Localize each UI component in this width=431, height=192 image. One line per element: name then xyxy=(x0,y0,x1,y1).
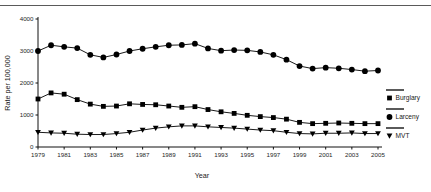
data-point xyxy=(257,49,263,55)
data-point xyxy=(205,46,211,52)
data-point xyxy=(323,65,329,71)
data-point xyxy=(349,121,354,126)
data-point xyxy=(127,101,132,106)
data-point xyxy=(49,91,54,96)
data-point xyxy=(179,42,185,48)
data-point xyxy=(127,48,133,54)
data-point xyxy=(258,114,263,119)
x-tick-label: 1983 xyxy=(83,151,97,158)
data-point xyxy=(88,102,93,107)
data-point xyxy=(310,66,316,72)
data-point xyxy=(297,120,302,125)
data-point xyxy=(231,47,237,53)
data-point xyxy=(166,104,171,109)
data-point xyxy=(140,102,145,107)
data-point xyxy=(375,68,381,74)
y-tick-label: 0 xyxy=(30,143,34,150)
x-tick-label: 2003 xyxy=(345,151,359,158)
data-point xyxy=(153,102,158,107)
series-larceny xyxy=(35,41,381,74)
data-point xyxy=(362,68,368,74)
x-tick-label: 2005 xyxy=(371,151,385,158)
data-point xyxy=(179,105,184,110)
series-burglary xyxy=(36,91,381,127)
data-point xyxy=(75,97,80,102)
chart-series-group xyxy=(35,41,381,138)
data-point xyxy=(244,47,250,53)
chart-legend: BurglaryLarcenyMVT xyxy=(386,90,421,139)
data-point xyxy=(140,46,146,52)
legend-item-larceny[interactable]: Larceny xyxy=(386,109,420,121)
data-point xyxy=(206,107,211,112)
data-point xyxy=(376,121,381,126)
x-tick-label: 1999 xyxy=(293,151,307,158)
data-point xyxy=(284,117,289,122)
x-tick-label: 1993 xyxy=(214,151,228,158)
x-tick-label: 1985 xyxy=(110,151,124,158)
data-point xyxy=(192,41,198,47)
chart-axes xyxy=(38,17,382,147)
data-point xyxy=(297,63,303,69)
data-point xyxy=(114,104,119,109)
data-point xyxy=(114,52,120,58)
data-point xyxy=(349,67,355,73)
y-tick-label: 4000 xyxy=(20,15,34,22)
x-tick-label: 1989 xyxy=(162,151,176,158)
legend-item-burglary[interactable]: Burglary xyxy=(386,90,421,102)
data-point xyxy=(323,121,328,126)
x-tick-label: 1987 xyxy=(136,151,150,158)
data-point xyxy=(87,52,93,58)
data-point xyxy=(193,104,198,109)
data-point xyxy=(284,57,290,63)
data-point xyxy=(232,111,237,116)
legend-marker-square xyxy=(387,96,392,101)
data-point xyxy=(100,55,106,61)
chart-figure: 01000200030004000 1979198119831985198719… xyxy=(0,0,431,192)
x-tick-label: 1997 xyxy=(267,151,281,158)
data-point xyxy=(35,48,41,54)
x-tick-label: 1991 xyxy=(188,151,202,158)
data-point xyxy=(245,113,250,118)
data-point xyxy=(219,109,224,114)
series-mvt xyxy=(35,124,381,138)
data-point xyxy=(74,45,80,51)
data-point xyxy=(271,115,276,120)
data-point xyxy=(48,42,54,48)
data-point xyxy=(336,65,342,71)
data-point xyxy=(336,121,341,126)
data-point xyxy=(36,97,41,102)
y-tick-label: 3000 xyxy=(20,47,34,54)
data-point xyxy=(166,42,172,48)
data-point xyxy=(101,104,106,109)
line-chart-plot: 01000200030004000 1979198119831985198719… xyxy=(0,0,431,192)
x-axis-title: Year xyxy=(195,171,210,180)
data-point xyxy=(270,52,276,58)
y-tick-label: 2000 xyxy=(20,79,34,86)
legend-marker-triangle xyxy=(387,134,393,139)
data-point xyxy=(310,121,315,126)
legend-marker-circle xyxy=(387,114,393,120)
data-point xyxy=(218,48,224,54)
legend-label: Larceny xyxy=(396,113,420,121)
data-point xyxy=(153,44,159,50)
data-point xyxy=(363,121,368,126)
x-axis-ticks: 1979198119831985198719891991199319951997… xyxy=(31,147,385,158)
y-tick-label: 1000 xyxy=(20,111,34,118)
data-point xyxy=(62,92,67,97)
legend-label: MVT xyxy=(396,132,410,139)
x-tick-label: 2001 xyxy=(319,151,333,158)
x-tick-label: 1995 xyxy=(240,151,254,158)
legend-item-mvt[interactable]: MVT xyxy=(386,128,409,139)
data-point xyxy=(61,44,67,50)
y-axis-title: Rate per 100,000 xyxy=(3,55,12,111)
x-tick-label: 1981 xyxy=(57,151,71,158)
x-tick-label: 1979 xyxy=(31,151,45,158)
legend-label: Burglary xyxy=(396,94,421,102)
